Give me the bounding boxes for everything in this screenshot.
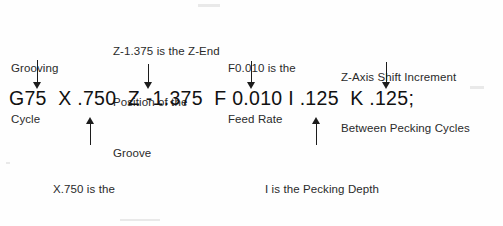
gcode-annotation-diagram: Grooving Cycle Z-1.375 is the Z-End Posi… — [0, 0, 503, 226]
arrow-to-g75-down-arrow-icon — [32, 60, 43, 89]
scan-artifact — [6, 162, 10, 164]
arrow-to-i-value-up-arrow-icon — [311, 117, 322, 145]
annotation-line: Z-1.375 is the Z-End — [113, 43, 220, 60]
annotation-line: X.750 is the — [53, 181, 133, 198]
arrow-to-f-value-down-arrow-icon — [246, 61, 257, 89]
arrow-to-k-value-down-arrow-icon — [381, 62, 392, 89]
arrow-shaft — [37, 60, 38, 83]
annotation-line: Cycle — [11, 111, 58, 128]
annotation-line: F0.010 is the — [228, 60, 296, 77]
annotation-pecking-depth: I is the Pecking Depth of Cut as a Radiu… — [265, 147, 394, 226]
annotation-line: Between Pecking Cycles — [341, 120, 470, 137]
annotation-line: I is the Pecking Depth — [265, 181, 394, 198]
arrow-shaft — [316, 123, 317, 145]
annotation-line: Feed Rate — [228, 111, 296, 128]
arrow-shaft — [148, 64, 149, 83]
annotation-x-diameter: X.750 is the Diameter at the Bottom of t… — [53, 147, 133, 226]
arrow-shaft — [251, 61, 252, 83]
scan-artifact — [470, 86, 484, 89]
gcode-line: G75 X .750 Z -1.375 F 0.010 I .125 K .12… — [9, 86, 414, 110]
annotation-line: Z-Axis Shift Increment — [341, 69, 470, 86]
arrow-shaft — [386, 62, 387, 83]
scan-artifact — [120, 219, 160, 221]
arrow-to-x-value-up-arrow-icon — [85, 117, 96, 145]
scan-artifact — [198, 4, 220, 7]
arrow-shaft — [90, 123, 91, 145]
